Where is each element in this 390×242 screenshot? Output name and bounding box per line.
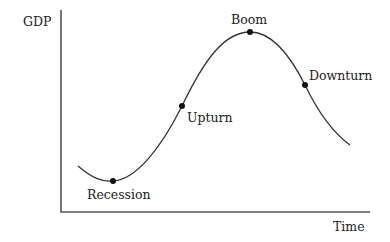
upturn-label: Upturn — [187, 110, 233, 125]
recession-point — [110, 178, 116, 184]
boom-point — [247, 29, 253, 35]
recession-label: Recession — [87, 187, 151, 202]
downturn-label: Downturn — [309, 68, 372, 83]
boom-label: Boom — [231, 12, 267, 27]
y-axis-label: GDP — [23, 14, 51, 29]
business-cycle-diagram: GDP Time Recession Upturn Boom Downturn — [0, 0, 390, 242]
business-cycle-curve — [78, 32, 350, 181]
x-axis-label: Time — [333, 219, 365, 234]
downturn-point — [302, 82, 308, 88]
upturn-point — [179, 103, 185, 109]
